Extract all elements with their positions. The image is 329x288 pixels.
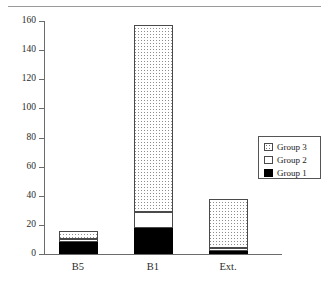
- y-axis-tick-mark: [39, 79, 44, 80]
- y-axis-tick-label: 0: [0, 249, 36, 259]
- white-swatch-icon: [264, 156, 273, 164]
- y-axis-tick-label: 40: [0, 191, 36, 201]
- stacked-bar: [134, 21, 173, 254]
- y-axis-line: [44, 21, 45, 254]
- legend-item-group-1: Group 1: [264, 167, 316, 179]
- black-swatch-icon: [264, 169, 273, 177]
- bar-segment-group-2: [59, 239, 98, 242]
- bar-segment-group-1: [134, 228, 173, 254]
- bar-segment-group-2: [209, 248, 248, 251]
- legend-label-group-3: Group 3: [277, 142, 307, 152]
- y-axis-tick-label: 60: [0, 162, 36, 172]
- legend-label-group-2: Group 2: [277, 155, 307, 165]
- bar-segment-group-1: [209, 251, 248, 254]
- stacked-bar: [59, 21, 98, 254]
- y-axis-tick-label: 120: [0, 74, 36, 84]
- y-axis-tick-mark: [39, 225, 44, 226]
- dotted-swatch-icon: [264, 143, 273, 151]
- y-axis-tick-mark: [39, 167, 44, 168]
- x-axis-label: B5: [43, 261, 113, 273]
- y-axis-tick-mark: [39, 196, 44, 197]
- bar-segment-group-2: [134, 212, 173, 228]
- y-axis-tick-label: 140: [0, 45, 36, 55]
- y-axis-tick-mark: [39, 50, 44, 51]
- y-axis-tick-label: 100: [0, 103, 36, 113]
- bar-segment-group-3: [59, 231, 98, 240]
- y-axis-tick-label: 160: [0, 16, 36, 26]
- bar-segment-group-3: [134, 25, 173, 211]
- legend-item-group-2: Group 2: [264, 154, 316, 166]
- x-axis-line: [44, 254, 282, 255]
- stacked-bar-chart: 020406080100120140160 B5B1Ext. Group 3 G…: [0, 0, 329, 288]
- legend-item-group-3: Group 3: [264, 141, 316, 153]
- legend-label-group-1: Group 1: [277, 168, 307, 178]
- chart-legend: Group 3 Group 2 Group 1: [258, 136, 321, 179]
- y-axis-tick-mark: [39, 108, 44, 109]
- y-axis-tick-label: 20: [0, 220, 36, 230]
- y-axis-tick-label: 80: [0, 133, 36, 143]
- y-axis-tick-mark: [39, 138, 44, 139]
- bar-segment-group-1: [59, 242, 98, 254]
- x-axis-label: Ext.: [193, 261, 263, 273]
- x-axis-label: B1: [118, 261, 188, 273]
- bar-segment-group-3: [209, 199, 248, 249]
- y-axis-tick-mark: [39, 254, 44, 255]
- stacked-bar: [209, 21, 248, 254]
- y-axis-tick-mark: [39, 21, 44, 22]
